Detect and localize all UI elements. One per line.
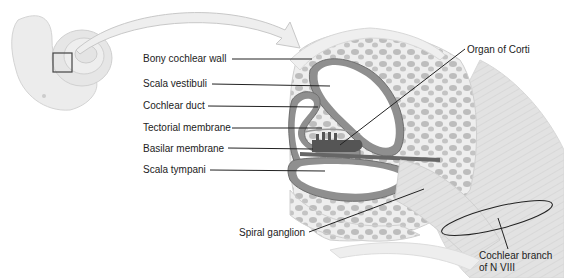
cochlea-diagram: Bony cochlear wall Scala vestibuli Cochl…	[0, 0, 564, 278]
label-scala-vestibuli: Scala vestibuli	[143, 78, 207, 90]
label-cochlear-duct: Cochlear duct	[143, 100, 205, 112]
label-scala-tympani: Scala tympani	[143, 164, 206, 176]
label-cochlear-branch-line1: Cochlear branch	[479, 250, 552, 262]
cochlea-thumbnail	[12, 16, 112, 110]
label-cochlear-branch-line2: of N VIII	[479, 262, 552, 274]
label-organ-of-corti: Organ of Corti	[467, 44, 530, 56]
label-spiral-ganglion: Spiral ganglion	[239, 227, 305, 239]
label-cochlear-branch: Cochlear branch of N VIII	[479, 250, 552, 274]
label-tectorial-membrane: Tectorial membrane	[143, 122, 231, 134]
label-bony-cochlear-wall: Bony cochlear wall	[143, 53, 226, 65]
label-basilar-membrane: Basilar membrane	[143, 143, 224, 155]
